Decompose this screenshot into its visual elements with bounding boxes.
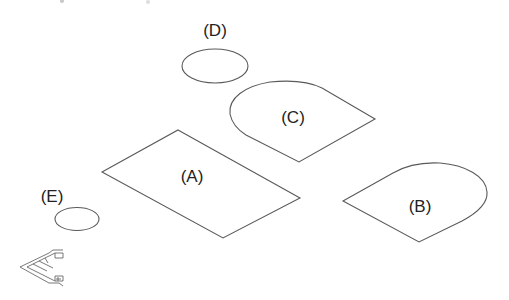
shape-b-label: (B) xyxy=(409,197,432,217)
shape-d-ellipse xyxy=(182,49,248,83)
shape-e-label: (E) xyxy=(41,187,64,207)
shape-c-label: (C) xyxy=(281,108,305,128)
isometric-axis-icon xyxy=(20,250,63,286)
diagram-canvas: (D) (C) (A) (B) (E) xyxy=(0,0,509,300)
shape-e-ellipse xyxy=(55,208,99,231)
edge-artifact-mark xyxy=(146,0,150,4)
shape-d-label: (D) xyxy=(203,21,227,41)
shape-a-label: (A) xyxy=(181,167,204,187)
